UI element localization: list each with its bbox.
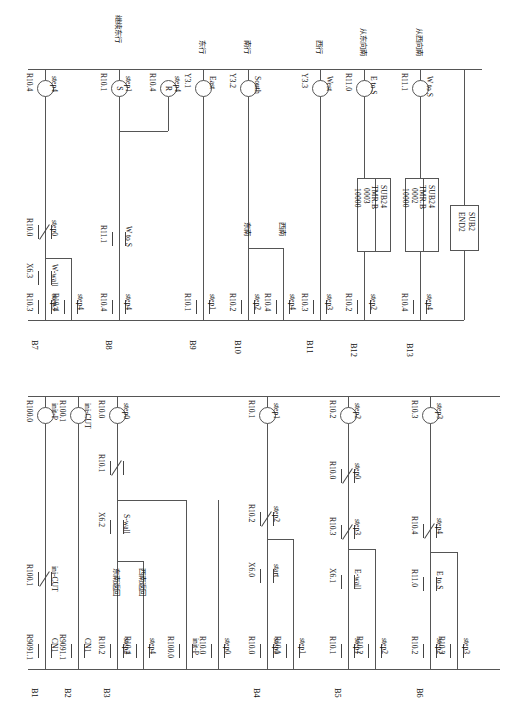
- coil-b13-comment: W to S: [425, 76, 433, 97]
- contact-b9-address: R10.1: [183, 293, 191, 311]
- contact-b13-comment: step4: [425, 294, 433, 310]
- contact-b6-r10-4-comment: step4: [435, 518, 443, 534]
- rung-label-b3: B3: [102, 688, 110, 698]
- contact-b10-r10-4-comment: step4: [288, 294, 296, 310]
- note-b10-southeast: 东南: [243, 222, 251, 236]
- coil-b8-reset-line: [168, 97, 169, 131]
- contact-b3-r10-4-comment: step4: [148, 638, 156, 654]
- timer2-instruction: SUB24: [427, 185, 436, 208]
- ladder-diagram-canvas: R10.4 step4 R10.0 step0 X6.3 W-wall R10.…: [0, 0, 520, 707]
- contact-b9-comment: step1: [208, 294, 216, 310]
- coil-b5-comment: step2: [353, 403, 361, 419]
- contact-b4-r10-0-address: R10.0: [247, 636, 255, 654]
- contact-b4-r10-2-comment: step2: [272, 506, 280, 522]
- contact-b3-r10-1[interactable]: [110, 461, 124, 475]
- contact-b7-r10-3-address: R10.3: [25, 293, 33, 311]
- rung-label-b9: B9: [188, 340, 196, 350]
- contact-b8-r11-1-comment: W to S: [124, 226, 132, 247]
- coil-b3-address: R10.0: [97, 400, 105, 418]
- contact-b5-x6-1-address: X6.1: [328, 568, 336, 583]
- coil-b9-comment: East: [208, 76, 216, 89]
- coil-b7-comment: step4: [50, 76, 58, 92]
- contact-b6-latch-comment: step3: [462, 638, 470, 654]
- contact-b3-r100-0-address: R100.0: [166, 636, 174, 658]
- coil-b2-comment: ini-CUT: [83, 403, 91, 429]
- branch-top-b3-a: [117, 561, 143, 562]
- timer-block-1[interactable]: 0003 10000 SUB24 TMR.B: [357, 178, 391, 252]
- note-b12-east-to-south: 从东向南: [359, 28, 367, 56]
- rung-line-b8: [119, 69, 120, 320]
- rung-label-b13: B13: [405, 343, 413, 357]
- timer2-preset: 10000: [401, 188, 410, 208]
- contact-b3-r10-0-address: R10.0: [198, 636, 206, 654]
- contact-b6-r10-2-address: R10.2: [410, 636, 418, 654]
- end-instruction: SUB2: [467, 212, 476, 231]
- contact-b4-r10-2-address: R10.2: [247, 504, 255, 522]
- contact-b5-r10-3-address: R10.3: [328, 517, 336, 535]
- contact-b4-x6-0-address: X6.0: [247, 562, 255, 577]
- coil-b9-address: Y3.1: [183, 73, 191, 88]
- contact-b3-x6-2-address: X6.2: [97, 512, 105, 527]
- contact-b7-r10-0-comment: step0: [50, 220, 58, 236]
- end-mnemonic: END2: [457, 212, 466, 232]
- note-b8-continue-east: 继续东行: [114, 15, 122, 43]
- note-b13-west-to-south: 从西向南: [415, 28, 423, 56]
- contact-b7-r10-0-address: R10.0: [25, 218, 33, 236]
- branch-top-b4: [267, 539, 293, 540]
- note-b3-southeast-return: 东南返回: [112, 568, 120, 596]
- contact-b7-branch-address: R10.4: [51, 293, 59, 311]
- timer-block-2[interactable]: 0002 10000 SUB24 TMR.B: [405, 178, 439, 252]
- contact-b4-latch-comment: step1: [298, 638, 306, 654]
- branch-top-b3-b: [117, 500, 186, 501]
- contact-b8-r10-4-address: R10.4: [99, 293, 107, 311]
- coil-b10-address: Y3.2: [228, 73, 236, 88]
- contact-b7-x6-3-comment: W-wall: [50, 264, 58, 286]
- note-b9-east: 东行: [198, 40, 206, 54]
- contact-b5-r10-0-comment: step0: [353, 463, 361, 479]
- contact-b6-r11-0-address: R11.0: [410, 569, 418, 587]
- timer1-instruction: SUB24: [379, 185, 388, 208]
- contact-b11-comment: step3: [325, 294, 333, 310]
- contact-b6-r11-0-comment: E to S: [435, 571, 443, 590]
- coil-b6-comment: step3: [435, 403, 443, 419]
- coil-b11-address: Y3.3: [300, 73, 308, 88]
- contact-b5-latch-comment: step2: [380, 638, 388, 654]
- branch-top-b6: [430, 552, 457, 553]
- coil-b6-address: R10.3: [410, 400, 418, 418]
- power-rail-right-lower: [28, 669, 500, 670]
- contact-b2-address: R9091.1: [58, 634, 66, 660]
- rung-label-b4: B4: [252, 688, 260, 698]
- rung-label-b5: B5: [333, 688, 341, 698]
- coil-b10-comment: South: [253, 76, 261, 94]
- contact-b5-r10-1-address: R10.1: [328, 636, 336, 654]
- contact-b1-r100-1-comment: ini-CUT: [50, 566, 58, 592]
- rung-label-b1: B1: [30, 688, 38, 698]
- end-rung-line: [464, 69, 465, 320]
- rung-line-b4: [267, 396, 268, 669]
- contact-b5-r10-3-comment: step3: [353, 519, 361, 535]
- contact-b2-comment: CN1: [83, 638, 91, 652]
- contact-b4-x6-0-comment: start: [272, 564, 280, 577]
- rung-label-b12: B12: [349, 343, 357, 357]
- coil-b2-address: R100.1: [58, 400, 66, 422]
- end-block[interactable]: SUB2 END2: [450, 205, 479, 251]
- power-rail-left: [28, 69, 482, 70]
- coil-b13-address: R11.1: [400, 73, 408, 91]
- rung-label-b8: B8: [104, 340, 112, 350]
- power-rail-right: [28, 320, 464, 321]
- coil-b11-comment: West: [325, 76, 333, 91]
- timer1-preset: 10000: [353, 188, 362, 208]
- note-b10-south: 南行: [243, 40, 251, 54]
- contact-b1-r9091-1-address: R9091.1: [25, 634, 33, 660]
- contact-b3-r10-1-address: R10.1: [97, 454, 105, 472]
- contact-b6-latch-address: R10.3: [437, 636, 445, 654]
- contact-b8-r10-4-comment: step4: [124, 294, 132, 310]
- coil-b3-comment: step0: [122, 403, 130, 419]
- coil-b8-reset-address: R10.4: [148, 73, 156, 91]
- contact-b3-r10-4-address: R10.4: [123, 636, 131, 654]
- contact-b1-r100-1-address: R100.1: [25, 564, 33, 586]
- coil-b12-address: R11.0: [344, 73, 352, 91]
- contact-b4-latch-address: R10.1: [273, 636, 281, 654]
- ladder-panel-upper: R10.4 step4 R10.0 step0 X6.3 W-wall R10.…: [0, 0, 520, 372]
- contact-b5-r10-0-address: R10.0: [328, 461, 336, 479]
